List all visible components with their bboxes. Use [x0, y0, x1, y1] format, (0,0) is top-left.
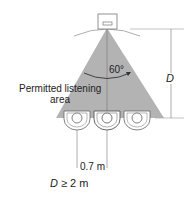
listener-head-icon [94, 111, 120, 130]
area-label-line1: Permitted listening [19, 83, 101, 94]
constraint-var: D [50, 177, 58, 189]
distance-label: D [166, 73, 174, 84]
angle-label: 60° [109, 64, 124, 75]
listener-head-icon [64, 111, 90, 130]
area-label-line2: area [50, 94, 70, 105]
spacing-label: 0.7 m [80, 161, 105, 172]
constraint-rest: ≥ 2 m [58, 177, 89, 189]
constraint-label: D ≥ 2 m [50, 178, 88, 189]
listener-head-icon [124, 111, 150, 130]
speaker-icon [98, 14, 117, 29]
